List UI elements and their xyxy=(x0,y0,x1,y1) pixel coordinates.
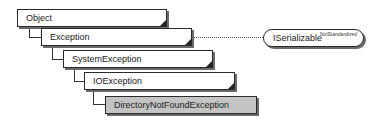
connector-io-directory-v xyxy=(93,89,94,104)
class-name: IOException xyxy=(93,76,142,86)
connector-system-io-v xyxy=(74,67,75,81)
connector-io-directory-h xyxy=(93,104,105,105)
class-name: DirectoryNotFoundException xyxy=(114,100,229,110)
corner-marker-icon xyxy=(185,39,191,45)
class-box-systemexception[interactable]: SystemException xyxy=(63,50,213,68)
connector-exception-system-h xyxy=(52,59,63,60)
corner-marker-icon xyxy=(160,20,166,26)
interface-box-iserializable[interactable]: ISerializable NotStandardized xyxy=(263,29,364,47)
corner-marker-icon xyxy=(228,83,234,89)
class-name: SystemException xyxy=(72,54,142,64)
class-box-ioexception[interactable]: IOException xyxy=(84,72,235,90)
connector-object-exception-v xyxy=(29,26,30,37)
interface-name: ISerializable xyxy=(273,33,322,43)
corner-marker-icon xyxy=(206,61,212,67)
class-name: Exception xyxy=(50,32,90,42)
class-box-exception[interactable]: Exception xyxy=(41,28,192,46)
connector-object-exception-h xyxy=(29,37,41,38)
class-box-object[interactable]: Object xyxy=(17,9,167,27)
not-standardized-tag: NotStandardized xyxy=(320,31,357,38)
interface-connector xyxy=(194,37,263,38)
connector-exception-system-v xyxy=(52,45,53,59)
connector-system-io-h xyxy=(74,81,84,82)
class-name: Object xyxy=(26,13,52,23)
class-box-directorynotfoundexception[interactable]: DirectoryNotFoundException xyxy=(105,96,257,114)
